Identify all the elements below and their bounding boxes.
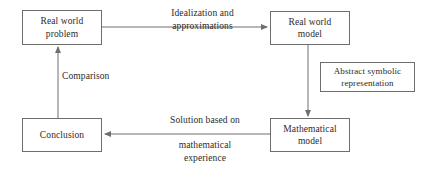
node-abstract-symbolic-representation: Abstract symbolic representation (320, 62, 415, 92)
node-mathematical-model: Mathematical model (270, 118, 350, 152)
edge-label-comparison: Comparison (62, 70, 142, 83)
node-real-world-problem: Real world problem (22, 10, 102, 45)
node-label: Conclusion (40, 129, 84, 142)
modelling-cycle-diagram: Real world problem Real world model Abst… (0, 0, 429, 171)
edge-label-idealization: Idealization and approximations (140, 7, 265, 32)
node-label: Mathematical model (283, 123, 336, 148)
node-label: Real world model (289, 16, 332, 41)
node-label: Real world problem (41, 15, 84, 40)
node-label: Abstract symbolic representation (334, 65, 401, 89)
node-conclusion: Conclusion (22, 118, 102, 152)
edge-label-solution-based-on: Solution based on (140, 114, 270, 127)
edge-label-mathematical-experience: mathematical experience (140, 139, 270, 164)
node-real-world-model: Real world model (270, 11, 350, 45)
